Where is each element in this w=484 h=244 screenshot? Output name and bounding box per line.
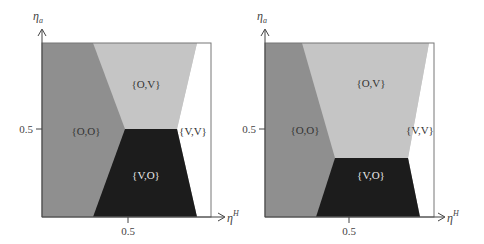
panel-left: 0.5 0.5 ηa ηH {O,V} {O,O} {V,V} {V,O} [19,9,240,237]
y-axis-label: ηa [257,9,267,25]
x-tick-label: 0.5 [342,225,356,237]
x-axis-label: ηH [227,209,240,225]
label-vv: {V,V} [179,125,207,137]
y-tick-label: 0.5 [242,123,256,135]
y-axis-label: ηa [33,9,43,25]
label-oo: {O,O} [71,125,100,137]
x-tick-label: 0.5 [121,225,135,237]
label-ov: {O,V} [131,78,160,90]
label-vo: {V,O} [132,169,160,181]
panel-right: 0.5 0.5 ηa ηH {O,V} {O,O} {V,V} {V,O} [242,9,460,237]
label-oo: {O,O} [290,124,319,136]
phase-diagrams: 0.5 0.5 ηa ηH {O,V} {O,O} {V,V} {V,O} 0.… [0,0,484,244]
x-axis-label: ηH [447,209,460,225]
y-tick-label: 0.5 [19,123,33,135]
label-vo: {V,O} [357,169,385,181]
label-vv: {V,V} [406,124,434,136]
label-ov: {O,V} [356,77,385,89]
